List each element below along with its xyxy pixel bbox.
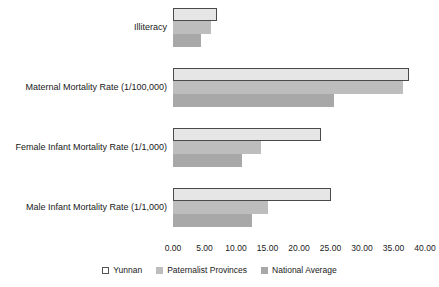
category-label-1: Maternal Mortality Rate (1/100,000) <box>0 82 167 93</box>
x-tick-label-3: 15.00 <box>257 243 278 254</box>
chart-legend: YunnanPaternalist ProvincesNational Aver… <box>0 265 439 275</box>
category-label-2: Female Infant Mortality Rate (1/1,000) <box>0 142 167 153</box>
bar-2-3 <box>173 214 252 227</box>
x-tick-label-5: 25.00 <box>320 243 341 254</box>
bar-chart: IlliteracyMaternal Mortality Rate (1/100… <box>0 0 439 287</box>
bar-0-1 <box>173 68 409 81</box>
category-label-0: Illiteracy <box>0 22 167 33</box>
plot-area <box>173 8 425 240</box>
x-tick-label-4: 20.00 <box>288 243 309 254</box>
legend-swatch-icon-2 <box>261 267 268 274</box>
legend-label-2: National Average <box>272 265 337 275</box>
legend-item-2[interactable]: National Average <box>261 265 337 275</box>
x-tick-label-2: 10.00 <box>225 243 246 254</box>
x-tick-label-0: 0.00 <box>165 243 182 254</box>
bar-2-2 <box>173 154 242 167</box>
bar-2-0 <box>173 34 201 47</box>
x-tick-label-8: 40.00 <box>414 243 435 254</box>
bar-1-2 <box>173 141 261 154</box>
legend-label-0: Yunnan <box>113 265 142 275</box>
legend-swatch-icon-0 <box>102 267 109 274</box>
bar-0-0 <box>173 8 217 21</box>
bar-2-1 <box>173 94 334 107</box>
legend-item-1[interactable]: Paternalist Provinces <box>156 265 247 275</box>
x-tick-label-7: 35.00 <box>383 243 404 254</box>
bar-1-3 <box>173 201 268 214</box>
legend-label-1: Paternalist Provinces <box>167 265 247 275</box>
x-axis: 0.005.0010.0015.0020.0025.0030.0035.0040… <box>173 243 425 255</box>
bar-1-0 <box>173 21 211 34</box>
bar-0-3 <box>173 188 331 201</box>
x-tick-label-1: 5.00 <box>196 243 213 254</box>
legend-swatch-icon-1 <box>156 267 163 274</box>
bar-1-1 <box>173 81 403 94</box>
legend-item-0[interactable]: Yunnan <box>102 265 142 275</box>
x-tick-label-6: 30.00 <box>351 243 372 254</box>
category-label-3: Male Infant Mortality Rate (1/1,000) <box>0 202 167 213</box>
bar-0-2 <box>173 128 321 141</box>
